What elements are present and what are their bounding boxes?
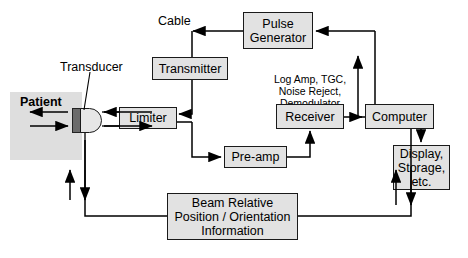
ultrasound-block-diagram: Patient Transducer Cable Log Amp, TGC, N…	[0, 0, 468, 258]
connector-wires	[0, 0, 468, 258]
